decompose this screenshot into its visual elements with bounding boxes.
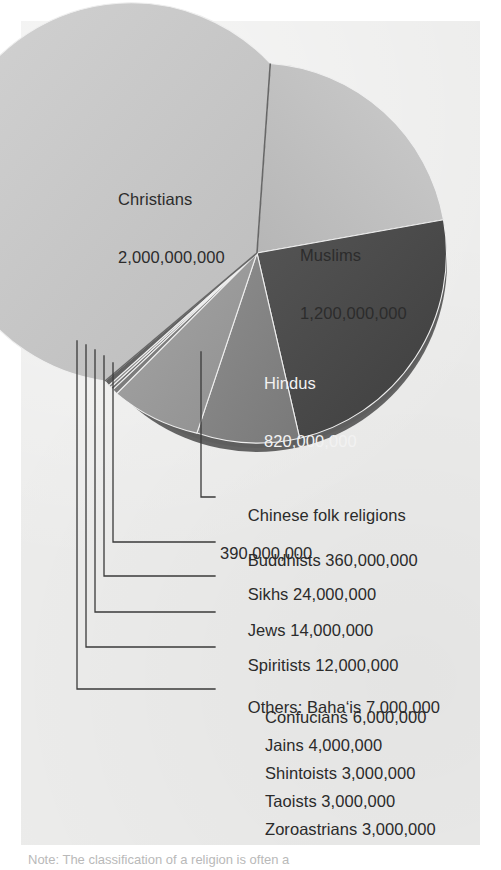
others-item-confucians: Confucians 6,000,000 (265, 708, 427, 727)
pie-label-hindus-value: 820,000,000 (264, 432, 357, 451)
pie-label-christians-name: Christians (118, 190, 225, 209)
pie-chart-svg (0, 0, 501, 870)
others-item-taoists: Taoists 3,000,000 (265, 792, 395, 811)
callout-chinese-folk-label: Chinese folk religions (248, 506, 406, 524)
pie-label-hindus-name: Hindus (264, 374, 357, 393)
pie-label-christians: Christians 2,000,000,000 (118, 152, 225, 305)
pie-label-hindus: Hindus 820,000,000 (264, 336, 357, 489)
others-item-jains: Jains 4,000,000 (265, 736, 382, 755)
pie-chart: Christians 2,000,000,000 Muslims 1,200,0… (0, 0, 501, 870)
pie-label-muslims-name: Muslims (300, 246, 407, 265)
pie-label-muslims-value: 1,200,000,000 (300, 304, 407, 323)
figure-page: Christians 2,000,000,000 Muslims 1,200,0… (0, 0, 501, 870)
callout-spiritists-label: Spiritists 12,000,000 (248, 656, 399, 674)
figure-caption-partial: Note: The classification of a religion i… (28, 852, 468, 870)
callout-sikhs-label: Sikhs 24,000,000 (248, 585, 376, 603)
pie-label-christians-value: 2,000,000,000 (118, 248, 225, 267)
others-item-zoroastrians: Zoroastrians 3,000,000 (265, 820, 436, 839)
others-item-shintoists: Shintoists 3,000,000 (265, 764, 416, 783)
